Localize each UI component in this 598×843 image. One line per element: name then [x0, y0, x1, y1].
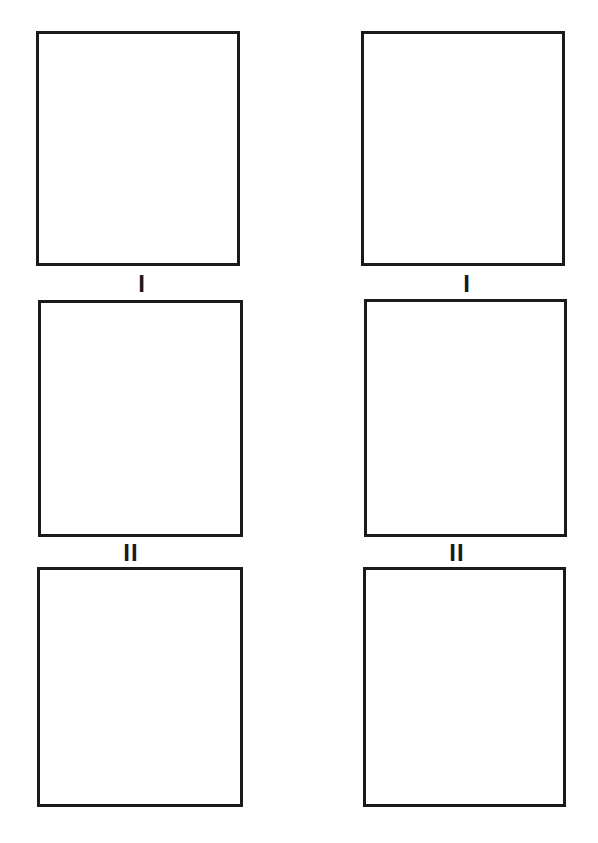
right-box-1 — [361, 31, 565, 266]
right-label-2: II — [437, 543, 477, 563]
right-label-1: I — [447, 274, 487, 294]
left-box-3 — [37, 567, 243, 807]
right-box-2 — [364, 299, 567, 537]
left-label-2: II — [111, 543, 151, 563]
right-box-3 — [363, 567, 566, 807]
left-label-1: I — [122, 274, 162, 294]
left-box-1 — [36, 31, 240, 266]
left-box-2 — [38, 300, 243, 537]
